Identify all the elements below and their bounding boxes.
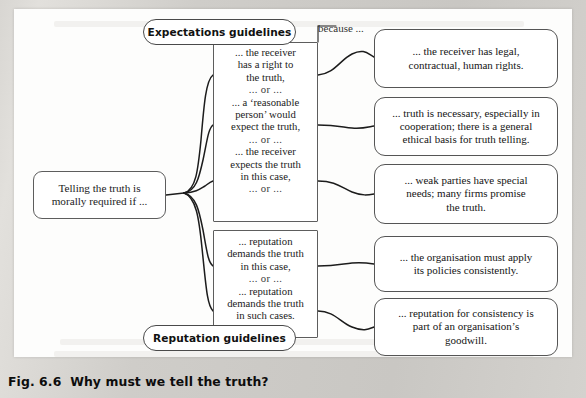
reputation-guidelines-label[interactable]: Reputation guidelines (143, 325, 296, 351)
exp-c1-line2: has a right to (217, 58, 314, 70)
scanned-page: Telling the truth is morally required if… (0, 0, 586, 398)
reason-5-line2: part of an organisation’s (413, 320, 519, 332)
reason-4-line2: its policies consistently. (414, 264, 519, 276)
exp-separator-2: ... or ... (217, 133, 314, 145)
exp-c1-line3: the truth, (217, 71, 314, 83)
reason-3-line1: ... weak parties have special (404, 174, 527, 186)
rep-c2-line3: in such cases. (217, 309, 314, 321)
reason-2-line3: ethical basis for truth telling. (403, 133, 530, 145)
exp-c2-line3: expect the truth, (217, 120, 314, 132)
reason-box-1[interactable]: ... the receiver has legal, contractual,… (374, 29, 558, 88)
because-label: because ... (318, 22, 364, 34)
expectations-conditions-box[interactable]: ... the receiver has a right to the trut… (213, 42, 318, 222)
exp-separator-3: ... or ... (217, 182, 314, 194)
root-node-label: Telling the truth is morally required if… (40, 182, 159, 208)
reason-box-5[interactable]: ... reputation for consistency is part o… (374, 298, 558, 356)
reason-box-3[interactable]: ... weak parties have special needs; man… (374, 164, 558, 224)
expectations-guidelines-label[interactable]: Expectations guidelines (143, 19, 296, 45)
reason-5-line1: ... reputation for consistency is (398, 307, 533, 319)
exp-c3-line1: ... the receiver (217, 145, 314, 157)
reason-5-line3: goodwill. (445, 334, 487, 346)
reason-1-line2: contractual, human rights. (409, 59, 524, 71)
reason-box-2[interactable]: ... truth is necessary, especially in co… (374, 97, 558, 156)
reason-3-line3: the truth. (446, 201, 486, 213)
rep-c1-line2: demands the truth (217, 247, 314, 259)
exp-c3-line2: expects the truth (217, 158, 314, 170)
reason-1-line1: ... the receiver has legal, (413, 45, 520, 57)
reason-2-line2: cooperation; there is a general (400, 120, 533, 132)
rep-separator-1: ... or ... (217, 272, 314, 284)
exp-separator-1: ... or ... (217, 83, 314, 95)
reason-4-line1: ... the organisation must apply (400, 251, 533, 263)
rep-c1-line1: ... reputation (217, 235, 314, 247)
rep-c1-line3: in this case, (217, 260, 314, 272)
rep-c2-line1: ... reputation (217, 285, 314, 297)
exp-c3-line3: in this case, (217, 170, 314, 182)
root-node[interactable]: Telling the truth is morally required if… (33, 171, 166, 219)
reason-2-line1: ... truth is necessary, especially in (392, 107, 539, 119)
exp-c2-line2: person’ would (217, 108, 314, 120)
rep-c2-line2: demands the truth (217, 297, 314, 309)
figure-caption: Fig. 6.6 Why must we tell the truth? (8, 374, 269, 389)
expectations-guidelines-text: Expectations guidelines (148, 26, 292, 38)
reputation-guidelines-text: Reputation guidelines (153, 332, 286, 344)
reason-box-4[interactable]: ... the organisation must apply its poli… (374, 236, 558, 292)
reason-3-line2: needs; many firms promise (406, 187, 525, 199)
reputation-conditions-box[interactable]: ... reputation demands the truth in this… (213, 230, 318, 338)
exp-c2-line1: ... a ‘reasonable (217, 96, 314, 108)
exp-c1-line1: ... the receiver (217, 46, 314, 58)
